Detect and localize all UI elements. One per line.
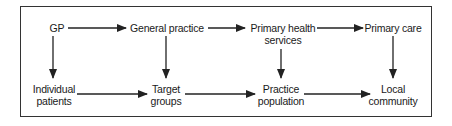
node-label: Primary health (251, 22, 316, 34)
node-target-groups: Target groups (151, 83, 182, 107)
node-label: Individual (33, 83, 75, 95)
node-label: groups (151, 95, 182, 107)
node-label: community (369, 95, 418, 107)
diagram-arrows (0, 0, 452, 126)
node-gp: GP (50, 22, 65, 34)
node-label: General practice (130, 22, 204, 34)
node-individual-patients: Individual patients (33, 83, 75, 107)
node-label: population (258, 95, 304, 107)
node-label: services (251, 34, 316, 46)
node-label: Primary care (364, 22, 421, 34)
node-local-community: Local community (369, 83, 418, 107)
node-label: Local (369, 83, 418, 95)
node-general-practice: General practice (130, 22, 204, 34)
node-label: Target (151, 83, 182, 95)
node-primary-health-services: Primary health services (251, 22, 316, 46)
node-label: GP (50, 22, 65, 34)
node-label: Practice (258, 83, 304, 95)
node-label: patients (33, 95, 75, 107)
node-practice-population: Practice population (258, 83, 304, 107)
node-primary-care: Primary care (364, 22, 421, 34)
